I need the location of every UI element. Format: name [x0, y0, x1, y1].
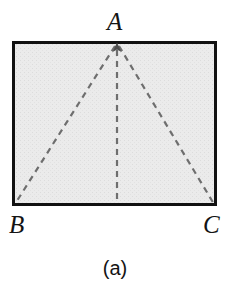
vertex-label-a: A [0, 9, 230, 34]
vertex-label-b: B [9, 212, 25, 237]
rectangle-fill [14, 43, 216, 205]
vertex-label-c: C [203, 212, 220, 237]
figure-container: A B C (a) [0, 0, 230, 291]
figure-caption: (a) [0, 258, 230, 278]
geometry-diagram [0, 0, 230, 291]
